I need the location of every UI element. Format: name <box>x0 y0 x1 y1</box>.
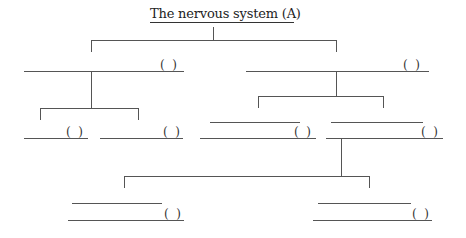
connector <box>258 96 259 108</box>
connector <box>124 176 125 188</box>
left-node-paren: ( ) <box>160 59 177 71</box>
right-node-paren: ( ) <box>403 59 420 71</box>
connector <box>258 96 384 97</box>
connector <box>40 108 41 120</box>
root-node-title: The nervous system (A) <box>150 6 294 23</box>
right-node-blank[interactable] <box>246 71 429 72</box>
right-grandchild-1-blank-top[interactable] <box>72 203 162 204</box>
right-child-1-paren: ( ) <box>294 126 311 138</box>
connector <box>369 176 370 188</box>
connector <box>91 40 92 52</box>
left-child-1-paren: ( ) <box>66 126 83 138</box>
connector <box>341 138 342 176</box>
right-grandchild-2-paren: ( ) <box>412 208 429 220</box>
right-grandchild-2-blank-top[interactable] <box>318 203 411 204</box>
connector <box>336 40 337 52</box>
connector <box>91 40 337 41</box>
left-child-2-paren: ( ) <box>163 126 180 138</box>
connector <box>124 176 370 177</box>
right-child-1-blank-top[interactable] <box>210 122 300 123</box>
connector <box>336 71 337 96</box>
connector <box>91 71 92 108</box>
connector <box>213 27 214 40</box>
right-grandchild-1-paren: ( ) <box>164 208 181 220</box>
connector <box>383 96 384 108</box>
connector <box>40 108 139 109</box>
right-child-2-paren: ( ) <box>421 126 438 138</box>
connector <box>138 108 139 120</box>
right-child-2-blank-top[interactable] <box>331 122 423 123</box>
